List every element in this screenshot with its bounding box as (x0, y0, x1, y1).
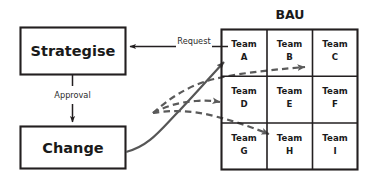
approval-label: Approval (54, 90, 90, 100)
bau-cell-team-d[interactable]: Team D (231, 86, 256, 109)
bau-cell-team-h[interactable]: Team H (277, 133, 302, 156)
bau-cell-team-b[interactable]: Team B (277, 39, 302, 62)
connector-approval: Approval (54, 75, 90, 123)
bau-cell-team-c[interactable]: Team C (322, 39, 347, 62)
bau-cell-team-f-line1: Team (322, 86, 347, 96)
bau-cell-team-f[interactable]: Team F (322, 86, 347, 109)
bau-cell-team-e-line1: Team (277, 86, 302, 96)
bau-cell-team-i-line1: Team (322, 133, 347, 143)
diagram-canvas: Strategise Change Approval Request (0, 0, 371, 182)
curve-change-to-team-a (126, 62, 224, 152)
bau-cell-team-a-line1: Team (231, 39, 256, 49)
bau-cell-team-d-line1: Team (231, 86, 256, 96)
bau-cell-team-d-line2: D (240, 99, 247, 109)
bau-cell-team-h-line1: Team (277, 133, 302, 143)
bau-cell-team-e-line2: E (287, 99, 293, 109)
connector-change-to-team-a (126, 62, 224, 152)
bau-cell-team-g[interactable]: Team G (231, 133, 256, 156)
request-label: Request (177, 36, 211, 46)
bau-cell-team-i-line2: I (333, 146, 336, 156)
bau-cell-team-f-line2: F (332, 99, 338, 109)
strategise-label: Strategise (31, 43, 116, 59)
bau-cell-team-a-line2: A (241, 52, 248, 62)
bau-title: BAU (276, 7, 305, 22)
diagram-svg: Strategise Change Approval Request (0, 0, 371, 182)
bau-grid: Team A Team B Team C Team D Team E Team (222, 30, 358, 170)
bau-cell-team-i[interactable]: Team I (322, 133, 347, 156)
change-label: Change (42, 140, 103, 156)
bau-cell-team-a[interactable]: Team A (231, 39, 256, 62)
bau-cell-team-h-line2: H (286, 146, 293, 156)
bau-cell-team-e[interactable]: Team E (277, 86, 302, 109)
process-box-strategise[interactable]: Strategise (21, 28, 126, 75)
bau-cell-team-b-line1: Team (277, 39, 302, 49)
bau-cell-team-b-line2: B (286, 52, 293, 62)
bau-cell-team-c-line1: Team (322, 39, 347, 49)
bau-cell-team-g-line2: G (240, 146, 247, 156)
process-box-change[interactable]: Change (21, 127, 126, 169)
bau-cell-team-c-line2: C (332, 52, 338, 62)
connector-request: Request (130, 36, 228, 47)
bau-cell-team-g-line1: Team (231, 133, 256, 143)
